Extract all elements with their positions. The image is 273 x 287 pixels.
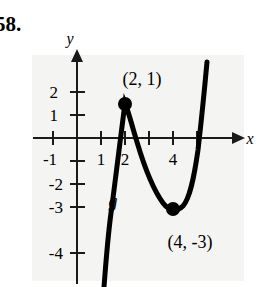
y-axis: y <box>64 30 83 284</box>
graph-canvas: x y -1 1 2 <box>0 0 273 287</box>
curve-name-label: g <box>109 191 118 211</box>
x-tick-label-1: 1 <box>97 150 106 169</box>
x-tick-labels: -1 1 2 4 <box>43 150 178 169</box>
y-tick-label--2: -2 <box>49 175 63 194</box>
y-axis-arrow-icon <box>71 49 83 62</box>
x-tick-label-2: 2 <box>121 150 130 169</box>
x-tick-label-4: 4 <box>169 150 178 169</box>
annotation-local-minimum: (4, -3) <box>168 232 213 253</box>
curve-g <box>104 62 207 287</box>
x-tick-label--1: -1 <box>43 150 57 169</box>
y-tick-label-2: 2 <box>50 83 59 102</box>
local-minimum-point <box>166 202 180 216</box>
y-tick-label-1: 1 <box>50 106 59 125</box>
x-axis: x <box>33 130 254 147</box>
y-tick-label--4: -4 <box>49 244 64 263</box>
x-axis-label: x <box>245 130 253 147</box>
local-maximum-point <box>118 97 132 111</box>
figure-container: 58. x y <box>0 0 273 287</box>
annotation-local-maximum: (2, 1) <box>123 69 162 90</box>
y-tick-label--3: -3 <box>49 198 63 217</box>
y-tick-labels: 2 1 -2 -3 -4 <box>49 83 64 263</box>
y-axis-label: y <box>64 30 74 48</box>
x-axis-arrow-icon <box>232 132 245 144</box>
